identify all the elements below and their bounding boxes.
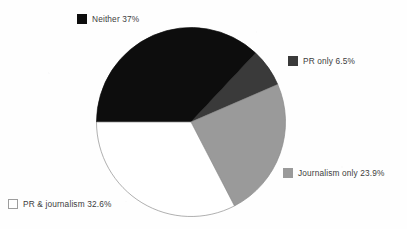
legend-item-journalism-only[interactable]: Journalism only 23.9%	[283, 168, 385, 178]
legend-swatch-pr-only	[288, 56, 298, 66]
legend-label-journalism-only: Journalism only 23.9%	[298, 168, 385, 178]
legend-label-pr-only: PR only 6.5%	[303, 56, 355, 66]
legend-swatch-pr-journalism	[8, 199, 18, 209]
legend-item-neither[interactable]: Neither 37%	[77, 14, 139, 24]
pie-slice-group	[97, 27, 286, 216]
legend-swatch-journalism-only	[283, 168, 293, 178]
legend-item-pr-journalism[interactable]: PR & journalism 32.6%	[8, 199, 111, 209]
legend-label-neither: Neither 37%	[92, 14, 139, 24]
pie-chart-svg	[0, 0, 407, 229]
legend-swatch-neither	[77, 14, 87, 24]
legend-label-pr-journalism: PR & journalism 32.6%	[23, 199, 111, 209]
legend-item-pr-only[interactable]: PR only 6.5%	[288, 56, 355, 66]
pie-chart-figure: Neither 37% PR only 6.5% Journalism only…	[0, 0, 407, 229]
